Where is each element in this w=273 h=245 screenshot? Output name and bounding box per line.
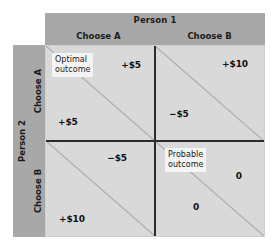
row-option-choose-a: Choose A (30, 45, 45, 141)
column-option-choose-a: Choose A (45, 27, 156, 45)
row-option-choose-b: Choose B (30, 141, 45, 237)
payoff-matrix-figure: Person 1 Choose A Choose B Person 2 Choo… (0, 0, 273, 245)
payoff-grid: Optimal outcome +$5 +$5 +$10 −$5 −$5 +$1… (45, 45, 265, 237)
row-options-column: Choose A Choose B (30, 45, 45, 237)
row-option-choose-b-label: Choose B (33, 169, 43, 213)
payoff-b-a-person1: +$10 (222, 59, 248, 69)
payoff-b-a-person2: −$5 (169, 109, 189, 119)
row-header-person2-label: Person 2 (17, 120, 27, 162)
cell-b-b: Probable outcome 0 0 (155, 141, 264, 236)
cell-a-b: −$5 +$10 (46, 141, 155, 236)
row-header-person2: Person 2 (13, 45, 30, 237)
horizontal-divider (46, 140, 264, 142)
cell-a-a: Optimal outcome +$5 +$5 (46, 46, 155, 141)
cell-b-a: +$10 −$5 (155, 46, 264, 141)
payoff-a-b-person2: +$10 (59, 214, 85, 224)
payoff-b-b-person2: 0 (193, 202, 199, 212)
callout-optimal-outcome: Optimal outcome (52, 53, 93, 77)
column-options-row: Choose A Choose B (45, 27, 265, 45)
matrix-container: Person 1 Choose A Choose B Person 2 Choo… (13, 13, 265, 237)
row-option-choose-a-label: Choose A (33, 69, 43, 113)
column-header-person1: Person 1 (45, 13, 265, 27)
column-option-choose-b: Choose B (156, 27, 265, 45)
payoff-b-b-person1: 0 (236, 171, 242, 181)
payoff-a-a-person2: +$5 (58, 117, 78, 127)
payoff-a-b-person1: −$5 (107, 153, 127, 163)
payoff-a-a-person1: +$5 (121, 60, 141, 70)
callout-probable-outcome: Probable outcome (165, 148, 206, 172)
